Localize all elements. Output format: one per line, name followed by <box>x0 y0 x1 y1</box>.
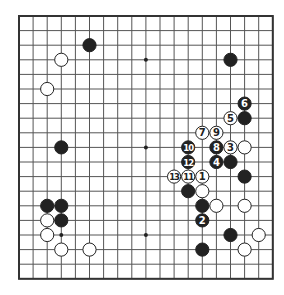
black-stone-move-4: 4 <box>210 155 223 168</box>
white-stone-move-9: 9 <box>210 126 223 139</box>
black-stone-circle <box>238 170 251 183</box>
go-board: 65791083124131112 <box>0 0 284 295</box>
black-stone-move-2: 2 <box>196 214 209 227</box>
move-number-label: 3 <box>227 142 234 153</box>
white-stone-move-5: 5 <box>224 112 237 125</box>
black-stone <box>224 53 237 66</box>
black-stone <box>196 243 209 256</box>
black-stone <box>55 141 68 154</box>
move-number-label: 9 <box>213 127 220 138</box>
black-stone-move-10: 10 <box>182 141 195 154</box>
move-number-label: 5 <box>227 113 234 124</box>
white-stone <box>41 214 54 227</box>
move-number-label: 4 <box>213 157 220 168</box>
white-stone-circle <box>41 214 54 227</box>
black-stone-circle <box>224 155 237 168</box>
white-stone-circle <box>238 243 251 256</box>
white-stone-circle <box>252 228 265 241</box>
black-stone <box>238 170 251 183</box>
white-stone <box>238 141 251 154</box>
white-stone <box>196 185 209 198</box>
move-number-label: 6 <box>241 98 248 109</box>
white-stone-circle <box>196 185 209 198</box>
white-stone-circle <box>41 82 54 95</box>
black-stone <box>41 199 54 212</box>
star-point <box>144 58 148 62</box>
black-stone <box>224 155 237 168</box>
black-stone-circle <box>55 199 68 212</box>
black-stone-circle <box>224 53 237 66</box>
white-stone-move-13: 13 <box>168 170 181 183</box>
white-stone-circle <box>238 199 251 212</box>
black-stone <box>55 199 68 212</box>
move-number-label: 2 <box>199 215 206 226</box>
black-stone-circle <box>238 112 251 125</box>
white-stone <box>41 228 54 241</box>
black-stone <box>83 39 96 52</box>
white-stone-move-3: 3 <box>224 141 237 154</box>
black-stone-circle <box>224 228 237 241</box>
white-stone-move-11: 11 <box>182 170 195 183</box>
black-stone-move-8: 8 <box>210 141 223 154</box>
black-stone-circle <box>55 214 68 227</box>
move-number-label: 11 <box>183 172 194 182</box>
white-stone-circle <box>210 199 223 212</box>
black-stone-move-12: 12 <box>182 155 195 168</box>
white-stone-circle <box>55 53 68 66</box>
star-point <box>59 233 63 237</box>
white-stone-circle <box>41 228 54 241</box>
black-stone <box>55 214 68 227</box>
white-stone-circle <box>238 141 251 154</box>
black-stone-circle <box>41 199 54 212</box>
move-number-label: 8 <box>213 142 220 153</box>
black-stone-circle <box>196 243 209 256</box>
black-stone-circle <box>55 141 68 154</box>
star-point <box>144 145 148 149</box>
black-stone <box>224 228 237 241</box>
black-stone-circle <box>182 185 195 198</box>
white-stone <box>252 228 265 241</box>
white-stone <box>238 199 251 212</box>
star-point <box>144 233 148 237</box>
black-stone-move-6: 6 <box>238 97 251 110</box>
move-number-label: 13 <box>169 172 180 182</box>
black-stone <box>182 185 195 198</box>
white-stone <box>41 82 54 95</box>
white-stone <box>55 53 68 66</box>
white-stone-move-7: 7 <box>196 126 209 139</box>
white-stone-circle <box>55 243 68 256</box>
white-stone <box>83 243 96 256</box>
black-stone <box>238 112 251 125</box>
white-stone <box>210 199 223 212</box>
black-stone-circle <box>83 39 96 52</box>
move-number-label: 12 <box>183 158 194 168</box>
white-stone <box>55 243 68 256</box>
white-stone <box>238 243 251 256</box>
move-number-label: 7 <box>199 127 206 138</box>
white-stone-circle <box>83 243 96 256</box>
move-number-label: 10 <box>183 143 194 153</box>
black-stone <box>196 199 209 212</box>
white-stone-move-1: 1 <box>196 170 209 183</box>
move-number-label: 1 <box>199 171 206 182</box>
black-stone-circle <box>196 199 209 212</box>
